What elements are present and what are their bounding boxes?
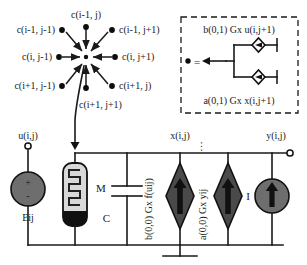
- circuit-diagram: c(i-1, j-1) c(i-1, j) c(i-1, j+1) c(i, j…: [0, 0, 307, 265]
- spoke-dot-sw: [59, 83, 65, 89]
- legend-left-arrowhead: [202, 57, 210, 65]
- spoke-label-e: c(i, j+1): [122, 51, 154, 63]
- output-terminal-label: y(i,j): [266, 130, 286, 142]
- legend-bottom-label: a(0,1) Gx x(i,j+1): [203, 95, 274, 107]
- current-source-label: I: [246, 190, 250, 202]
- spoke-line-se: [91, 64, 108, 84]
- spoke-dot-s: [83, 85, 89, 91]
- capacitor-label: C: [103, 212, 110, 224]
- controlled-source-b-branch: b(0,0) Gx f(uij): [143, 153, 194, 245]
- spoke-line-nw: [66, 32, 82, 51]
- memristor-branch: M: [63, 153, 106, 245]
- spoke-dot-ne: [109, 27, 115, 33]
- spoke-label-n: c(i-1, j): [71, 9, 101, 21]
- star-to-circuit-arrowhead: [71, 142, 80, 150]
- spoke-line-sw: [66, 64, 82, 84]
- spoke-label-w: c(i, j-1): [22, 51, 52, 63]
- voltage-source-minus: -: [26, 190, 29, 201]
- ccs-b-label: b(0,0) Gx f(uij): [143, 178, 155, 240]
- spoke-label-s: c(i+1, j+1): [79, 99, 122, 111]
- legend-equals-sign: =: [194, 56, 200, 68]
- memristor-label: M: [96, 182, 106, 194]
- legend-top-label: b(0,1) Gx u(i,j+1): [203, 24, 275, 36]
- current-source-branch: I: [246, 150, 293, 245]
- spoke-dot-nw: [59, 27, 65, 33]
- ground-symbol: [163, 245, 197, 256]
- spoke-label-sw: c(i+1, j-1): [14, 80, 55, 92]
- legend-dot-icon: [185, 58, 190, 63]
- star-center-node: [84, 55, 88, 59]
- figure-canvas: c(i-1, j-1) c(i-1, j) c(i-1, j+1) c(i, j…: [0, 0, 307, 265]
- spoke-label-nw: c(i-1, j-1): [17, 24, 55, 36]
- ccs-a-label: a(0,0) Gx yij: [197, 189, 209, 240]
- sources-ellipsis: ⋯: [196, 141, 208, 152]
- input-open-terminal: [25, 143, 31, 149]
- spoke-dot-w: [56, 54, 62, 60]
- spoke-line-ne: [91, 32, 108, 51]
- input-terminal-label: u(i,j): [18, 130, 38, 142]
- capacitor-branch: C: [103, 153, 142, 245]
- output-open-terminal: [287, 150, 293, 156]
- legend-source-top: [252, 38, 277, 52]
- spoke-dot-se: [109, 83, 115, 89]
- spoke-label-se: c(i+1, j): [119, 80, 151, 92]
- voltage-source-label: Eij: [22, 212, 34, 223]
- legend-source-bottom: [252, 70, 277, 84]
- coupling-definition-box: b(0,1) Gx u(i,j+1) a(0,1) Gx x(i,j+1) =: [181, 17, 298, 113]
- voltage-source-plus: +: [25, 177, 31, 188]
- spoke-dot-e: [112, 54, 118, 60]
- memristor-doped-region: [63, 211, 87, 226]
- spoke-dot-n: [83, 24, 89, 30]
- voltage-source-branch: + - Eij: [11, 143, 45, 245]
- spoke-label-ne: c(i-1, j+1): [119, 24, 160, 36]
- state-terminal-label: x(i,j): [170, 130, 190, 142]
- coupling-star: c(i-1, j-1) c(i-1, j) c(i-1, j+1) c(i, j…: [14, 9, 159, 150]
- controlled-source-a-branch: a(0,0) Gx yij: [197, 153, 242, 245]
- equivalent-circuit: u(i,j) x(i,j) y(i,j) + - Eij M: [11, 130, 293, 256]
